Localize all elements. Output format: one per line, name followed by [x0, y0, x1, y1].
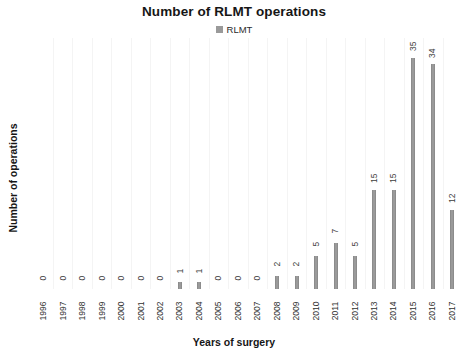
x-axis-tick-text: 2011: [331, 302, 341, 320]
legend-label-rlmt: RLMT: [227, 24, 253, 35]
x-axis-tick: 2007: [248, 292, 267, 332]
bar-value-label: 15: [390, 174, 399, 183]
x-axis-tick: 2013: [365, 292, 384, 332]
x-axis-title: Years of surgery: [0, 336, 468, 348]
x-axis-tick-text: 2001: [136, 302, 146, 321]
bar-value-label: 0: [156, 275, 165, 280]
bar[interactable]: [431, 64, 435, 289]
x-axis-tick: 2015: [404, 292, 423, 332]
bar-slot[interactable]: 0: [34, 38, 53, 289]
bar-value-label: 0: [117, 275, 126, 280]
x-axis-tick: 2002: [151, 292, 170, 332]
bar-slot[interactable]: 12: [443, 38, 462, 289]
chart-title: Number of RLMT operations: [0, 4, 468, 19]
bar-value-label: 12: [448, 194, 457, 203]
bar-value-label: 5: [312, 242, 321, 247]
bar-slot[interactable]: 0: [229, 38, 248, 289]
x-axis-tick: 2010: [306, 292, 325, 332]
x-axis-tick-text: 2012: [350, 302, 360, 321]
x-axis-tick: 2005: [209, 292, 228, 332]
bar[interactable]: [275, 276, 279, 289]
bar[interactable]: [334, 243, 338, 289]
bar-slot[interactable]: 7: [326, 38, 345, 289]
x-axis-tick-text: 2003: [175, 302, 185, 321]
x-axis-tick: 2006: [229, 292, 248, 332]
x-axis-tick: 2003: [170, 292, 189, 332]
x-axis-tick-text: 1996: [39, 302, 49, 321]
x-axis-tick: 2000: [112, 292, 131, 332]
bar-slot[interactable]: 2: [267, 38, 286, 289]
x-axis-tick-text: 2009: [292, 302, 302, 321]
bar-slot[interactable]: 5: [306, 38, 325, 289]
bar-slot[interactable]: 34: [423, 38, 442, 289]
y-axis-title-text: Number of operations: [7, 123, 19, 232]
bar-value-label: 0: [98, 275, 107, 280]
bar-slot[interactable]: 35: [404, 38, 423, 289]
x-axis-tick-text: 2000: [117, 302, 127, 321]
bar-value-label: 0: [137, 275, 146, 280]
bar-value-label: 2: [273, 262, 282, 267]
x-axis-tick: 2012: [345, 292, 364, 332]
x-axis-tick: 1997: [53, 292, 72, 332]
legend-swatch-rlmt: [216, 26, 223, 33]
bar-value-label: 1: [176, 269, 185, 274]
bar-value-label: 0: [253, 275, 262, 280]
bar-value-label: 35: [409, 42, 418, 51]
bar-value-label: 0: [78, 275, 87, 280]
bar-slot[interactable]: 0: [73, 38, 92, 289]
bar-value-label: 0: [59, 275, 68, 280]
bar[interactable]: [353, 256, 357, 289]
bar[interactable]: [197, 282, 201, 289]
bar-slot[interactable]: 1: [170, 38, 189, 289]
x-axis-tick: 2001: [131, 292, 150, 332]
x-axis-tick-text: 1999: [97, 302, 107, 321]
bar-slot[interactable]: 2: [287, 38, 306, 289]
x-axis-tick: 2008: [267, 292, 286, 332]
x-axis-tick-text: 2006: [233, 302, 243, 321]
x-axis-tick-text: 1998: [78, 302, 88, 321]
bar-value-label: 0: [215, 275, 224, 280]
bar-slot[interactable]: 0: [248, 38, 267, 289]
bar-slot[interactable]: 1: [190, 38, 209, 289]
bar-slot[interactable]: 0: [112, 38, 131, 289]
bar[interactable]: [411, 58, 415, 289]
bar[interactable]: [314, 256, 318, 289]
x-axis-tick-text: 2004: [194, 302, 204, 321]
x-axis-tick-labels: 1996199719981999200020012002200320042005…: [34, 292, 462, 332]
bar-slot[interactable]: 0: [151, 38, 170, 289]
bar[interactable]: [392, 190, 396, 289]
x-axis-tick-text: 2016: [428, 302, 438, 321]
x-axis-tick-text: 2014: [389, 302, 399, 321]
y-axis-title: Number of operations: [4, 113, 22, 243]
x-axis-tick-text: 2007: [253, 302, 263, 321]
bar-slot[interactable]: 0: [131, 38, 150, 289]
x-axis-tick-text: 2015: [408, 302, 418, 321]
bar[interactable]: [450, 210, 454, 289]
bar-slot[interactable]: 0: [53, 38, 72, 289]
plot-area: 000000011000225751515353412: [34, 38, 462, 289]
bar[interactable]: [372, 190, 376, 289]
x-axis-tick-text: 2013: [369, 302, 379, 321]
x-axis-tick-text: 2005: [214, 302, 224, 321]
bar-slot[interactable]: 15: [384, 38, 403, 289]
bar-slot[interactable]: 5: [345, 38, 364, 289]
bar-value-label: 5: [351, 242, 360, 247]
x-axis-tick-text: 1997: [58, 302, 68, 321]
bar[interactable]: [178, 282, 182, 289]
x-axis-tick: 2016: [423, 292, 442, 332]
bar-value-label: 0: [234, 275, 243, 280]
bar-slot[interactable]: 15: [365, 38, 384, 289]
x-axis-tick: 2014: [384, 292, 403, 332]
bar[interactable]: [295, 276, 299, 289]
x-axis-tick-text: 2017: [447, 302, 457, 321]
bar-value-label: 0: [39, 275, 48, 280]
bar-value-label: 2: [292, 262, 301, 267]
x-axis-tick: 2011: [326, 292, 345, 332]
bar-value-label: 34: [429, 48, 438, 57]
chart-legend: RLMT: [0, 24, 468, 35]
x-axis-tick: 1999: [92, 292, 111, 332]
x-axis-tick: 1998: [73, 292, 92, 332]
bar-slot[interactable]: 0: [92, 38, 111, 289]
bar-slot[interactable]: 0: [209, 38, 228, 289]
x-axis-tick-text: 2008: [272, 302, 282, 321]
